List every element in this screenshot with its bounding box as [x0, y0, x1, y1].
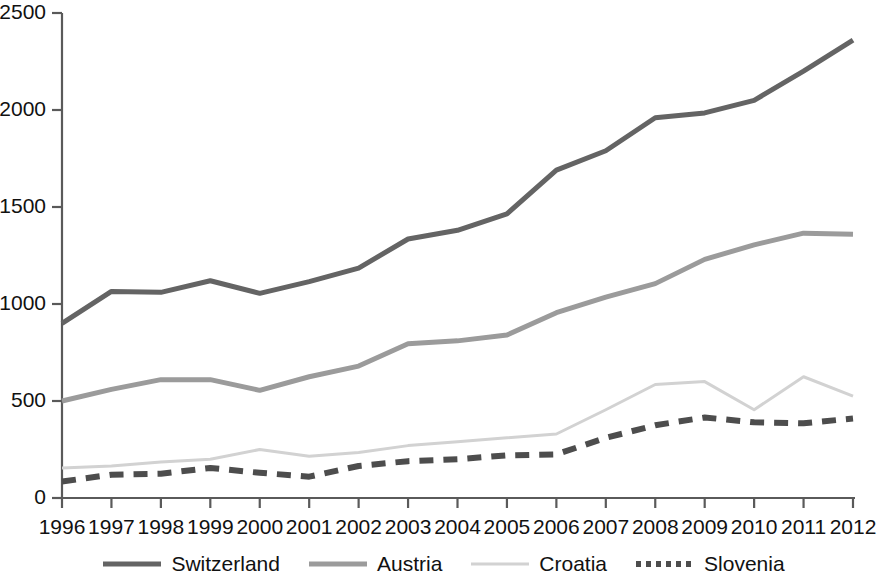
legend-item-austria: Austria: [308, 552, 442, 576]
series-line-austria: [62, 233, 853, 401]
legend-item-switzerland: Switzerland: [102, 552, 280, 576]
y-axis-tick-label: 1000: [0, 291, 46, 315]
legend-line-switzerland: [102, 555, 162, 573]
chart-series-group: [62, 40, 853, 481]
y-axis-tick-label: 2000: [0, 97, 46, 121]
legend-line-austria: [308, 555, 368, 573]
legend-line-croatia: [470, 555, 530, 573]
legend-label: Austria: [377, 552, 442, 576]
legend-label: Slovenia: [704, 552, 785, 576]
y-axis-tick-label: 0: [34, 485, 46, 509]
chart-axes: [52, 13, 855, 508]
y-axis-tick-label: 1500: [0, 194, 46, 218]
chart-legend: SwitzerlandAustriaCroatiaSlovenia: [0, 552, 887, 576]
y-axis-tick-label: 500: [11, 388, 46, 412]
series-line-slovenia: [62, 417, 853, 481]
y-axis-tick-label: 2500: [0, 0, 46, 24]
x-axis-tick-label: 2012: [823, 515, 883, 539]
legend-label: Croatia: [539, 552, 607, 576]
series-line-switzerland: [62, 40, 853, 323]
legend-item-croatia: Croatia: [470, 552, 607, 576]
chart-plot-area: [0, 0, 887, 588]
legend-item-slovenia: Slovenia: [635, 552, 785, 576]
legend-label: Switzerland: [171, 552, 280, 576]
legend-line-slovenia: [635, 555, 695, 573]
line-chart: 05001000150020002500 1996199719981999200…: [0, 0, 887, 588]
